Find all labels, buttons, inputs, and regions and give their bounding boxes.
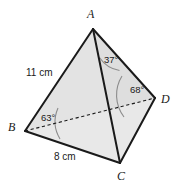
angle-label-b: 63° bbox=[41, 113, 55, 123]
edge-bc-length-label: 8 cm bbox=[54, 152, 76, 162]
tetrahedron-svg bbox=[0, 0, 182, 184]
vertex-label-d: D bbox=[161, 93, 170, 105]
angle-label-d: 68° bbox=[130, 85, 144, 95]
vertex-label-c: C bbox=[117, 170, 125, 182]
geometry-figure: A B C D 11 cm 8 cm 37° 63° 68° bbox=[0, 0, 182, 184]
vertex-label-b: B bbox=[8, 121, 15, 133]
edge-ab-length-label: 11 cm bbox=[26, 68, 53, 78]
angle-label-a: 37° bbox=[104, 55, 118, 65]
vertex-label-a: A bbox=[87, 8, 94, 20]
